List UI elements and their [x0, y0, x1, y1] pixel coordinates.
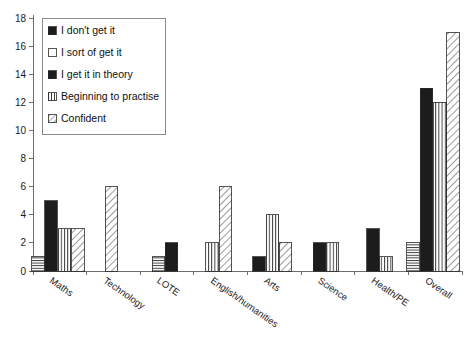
legend-item-label: I sort of get it [61, 46, 122, 58]
bar [367, 229, 380, 271]
y-tick-label: 18 [15, 13, 27, 24]
y-tick-label: 12 [15, 97, 27, 108]
bar-chart: 024681012141618 MathsTechnologyLOTEEngli… [0, 0, 470, 350]
bar [219, 187, 232, 271]
y-tick-label: 0 [20, 266, 26, 277]
bar [206, 243, 219, 271]
bar [58, 229, 71, 271]
chart-legend: I don't get itI sort of get itI get it i… [42, 18, 165, 134]
chart-canvas: 024681012141618 MathsTechnologyLOTEEngli… [0, 0, 470, 350]
legend-item-label: I get it in theory [61, 68, 134, 80]
bar [105, 187, 118, 271]
y-tick-label: 16 [15, 41, 27, 52]
empty-white-swatch [48, 49, 56, 57]
solid-black-swatch [48, 71, 56, 79]
vertical-lines-swatch [48, 93, 56, 101]
y-tick-label: 14 [15, 69, 27, 80]
bar [266, 215, 279, 271]
legend-item-label: I don't get it [61, 24, 115, 36]
bar [313, 243, 326, 271]
y-tick-label: 6 [20, 181, 26, 192]
legend-item: I get it in theory [48, 68, 134, 80]
bar [32, 257, 45, 271]
y-tick-label: 10 [15, 125, 27, 136]
bar [165, 243, 178, 271]
bar [45, 201, 58, 271]
y-tick-label: 8 [20, 153, 26, 164]
bar [152, 257, 165, 271]
bar [420, 88, 433, 271]
bar [434, 102, 447, 271]
bar [326, 243, 339, 271]
y-tick-label: 4 [20, 209, 26, 220]
bar [253, 257, 266, 271]
legend-item-label: Confident [61, 112, 106, 124]
bar [279, 243, 292, 271]
bar [380, 257, 393, 271]
bar [447, 32, 460, 271]
solid-black-swatch [48, 27, 56, 35]
bar [72, 229, 85, 271]
legend-item: Beginning to practise [48, 90, 159, 102]
legend-item-label: Beginning to practise [61, 90, 159, 102]
bar [407, 243, 420, 271]
y-tick-label: 2 [20, 237, 26, 248]
diagonal-lines-swatch [48, 115, 56, 123]
